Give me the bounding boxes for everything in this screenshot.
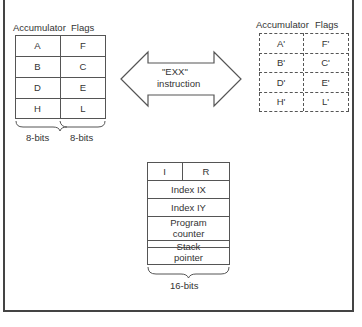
register-f-alt: F' [303,33,348,53]
grid-edge [229,240,230,264]
dashed-divider [348,33,349,111]
register-l: L [60,98,106,119]
main-accumulator-header: Accumulator [13,22,66,33]
register-b: B [15,56,60,77]
register-ix: Index IX [147,180,230,198]
sp-label-line2: pointer [174,252,203,263]
brace-label-acc: 8-bits [26,132,49,143]
brace-label-flags: 8-bits [70,132,93,143]
exx-label: "EXX" [162,66,188,77]
pc-label-line2: counter [173,228,205,239]
exx-instruction-label: instruction [157,78,200,89]
grid-bottom-edge [147,264,230,265]
register-stack-pointer: Stack pointer [147,240,230,264]
sp-label-line1: Stack [177,241,201,252]
register-d-alt: D' [259,72,303,92]
register-d: D [15,77,60,98]
brace-16bits-icon [147,266,230,279]
register-e: E [60,77,106,98]
alt-flags-header: Flags [315,19,338,30]
register-l-alt: L' [303,92,348,111]
pc-label-line1: Program [170,217,206,228]
register-c-alt: C' [303,53,348,72]
alt-accumulator-header: Accumulator [256,19,309,30]
register-h-alt: H' [259,92,303,111]
register-r: R [182,162,230,180]
brace-8bits-icon [15,120,106,132]
register-c: C [60,56,106,77]
register-a-alt: A' [259,33,303,53]
register-i: I [147,162,182,180]
register-f: F [60,35,106,56]
register-program-counter: Program counter [147,216,230,240]
grid-edge [147,240,148,264]
register-b-alt: B' [259,53,303,72]
brace-label-16bits: 16-bits [170,280,199,291]
register-a: A [15,35,60,56]
register-h: H [15,98,60,119]
register-e-alt: E' [303,72,348,92]
main-flags-header: Flags [71,22,94,33]
register-iy: Index IY [147,198,230,216]
dashed-divider [259,111,349,112]
